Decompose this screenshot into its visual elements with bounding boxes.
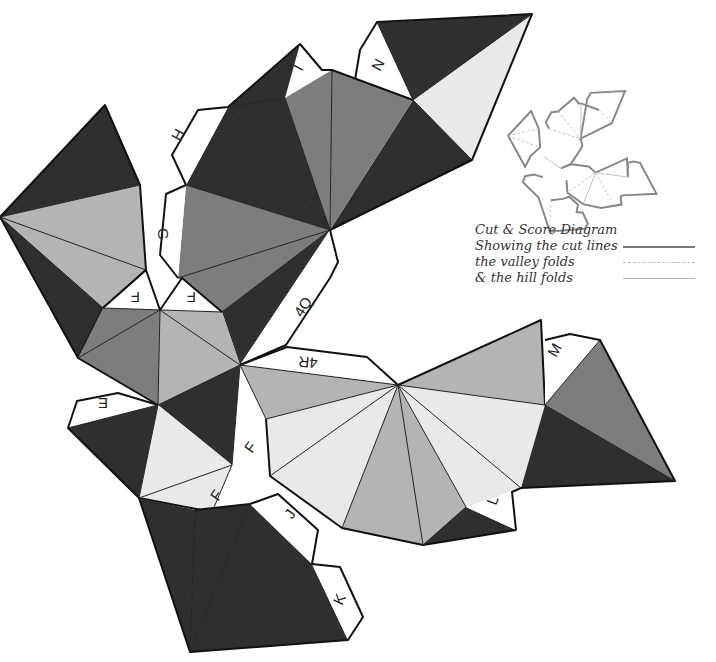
legend-item-cut: Showing the cut lines [475, 238, 705, 254]
legend-swatch-cut [623, 246, 695, 248]
tab-label-4r: 4R [298, 353, 319, 372]
legend-swatch-valley [623, 262, 695, 263]
legend: Cut & Score Diagram Showing the cut line… [475, 222, 705, 286]
legend-swatch-hill [623, 278, 695, 279]
piece-right: M [521, 334, 675, 488]
tab-label-f1: F [131, 289, 140, 306]
thumbnail-diagram [508, 91, 657, 231]
legend-label-cut: Showing the cut lines [475, 238, 618, 253]
legend-item-valley: the valley folds [475, 254, 705, 270]
tab-label-f2: F [187, 289, 196, 306]
legend-title: Cut & Score Diagram [475, 222, 705, 238]
legend-item-hill: & the hill folds [475, 270, 705, 286]
tab-label-g: G [155, 228, 172, 240]
legend-label-hill: & the hill folds [475, 270, 573, 285]
tab-label-e: E [98, 395, 108, 412]
papercraft-net: N I H G 4Q [0, 0, 716, 662]
legend-label-valley: the valley folds [475, 254, 575, 269]
legend-title-text: Cut & Score Diagram [475, 222, 617, 237]
